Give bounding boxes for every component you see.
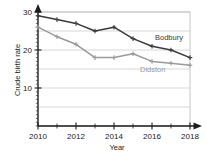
data-point-marker [150, 44, 155, 49]
x-tick-label: 2016 [143, 132, 161, 141]
y-tick-label: 30 [23, 8, 32, 17]
y-axis-arrowhead [34, 4, 41, 13]
data-point-marker [36, 14, 41, 19]
series-label-didston: Didston [140, 65, 165, 74]
y-axis-tick-labels: 102030 [23, 8, 32, 93]
data-point-marker [112, 55, 117, 60]
data-point-marker [169, 61, 174, 66]
x-tick-label: 2012 [67, 132, 85, 141]
x-tick-label: 2010 [29, 132, 47, 141]
chart-canvas: 102030 20102012201420162018 BodburyDidst… [0, 0, 206, 154]
series-annotations: BodburyDidston [140, 33, 183, 74]
data-point-marker [74, 21, 79, 26]
data-point-marker [150, 59, 155, 64]
y-axis-title: Crude birth rate [13, 44, 22, 96]
y-tick-label: 20 [23, 46, 32, 55]
data-point-marker [131, 52, 136, 57]
data-point-marker [93, 29, 98, 34]
y-tick-label: 10 [23, 84, 32, 93]
x-axis-arrowhead [194, 122, 203, 129]
x-tick-label: 2014 [105, 132, 123, 141]
x-axis-tick-labels: 20102012201420162018 [29, 132, 199, 141]
crude-birth-rate-chart: 102030 20102012201420162018 BodburyDidst… [0, 0, 206, 154]
x-axis-title: Year [109, 143, 125, 152]
data-point-marker [188, 55, 193, 60]
data-point-marker [55, 17, 60, 22]
data-point-marker [169, 48, 174, 53]
x-tick-label: 2018 [181, 132, 199, 141]
data-point-marker [188, 63, 193, 68]
series-label-bodbury: Bodbury [155, 33, 183, 42]
